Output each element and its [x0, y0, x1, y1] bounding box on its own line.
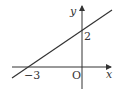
graph: y x O −3 2	[0, 0, 119, 94]
y-intercept-label: 2	[84, 30, 91, 43]
x-axis-label: x	[106, 68, 113, 81]
y-axis-label: y	[69, 5, 77, 18]
origin-label: O	[72, 69, 81, 82]
x-intercept-label: −3	[24, 69, 40, 82]
graph-line	[12, 10, 112, 78]
